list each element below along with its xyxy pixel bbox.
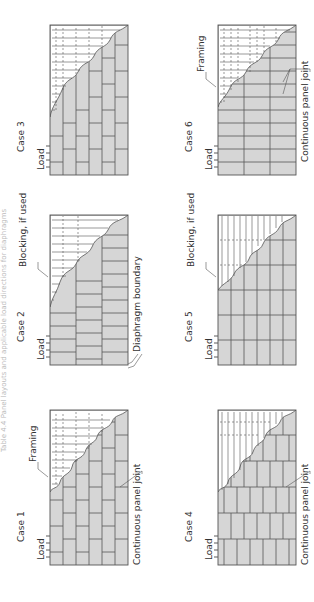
- load-arrows-icon: [46, 146, 50, 167]
- case-2-blocking-callout: Blocking, if used: [18, 193, 28, 267]
- case-1-label: Case 1: [16, 511, 26, 542]
- case-1: Case 1 Load Framing: [16, 410, 142, 565]
- diagram-figure: Table 4.4 Panel layouts and applicable l…: [0, 0, 314, 602]
- leader-line: [128, 354, 142, 368]
- case-4-joint-callout: Continuous panel joint: [300, 463, 310, 565]
- case-4-load-label: Load: [204, 538, 214, 560]
- case-2-label: Case 2: [16, 311, 26, 342]
- case-4-label: Case 4: [184, 511, 194, 542]
- leader-line: [38, 462, 48, 477]
- case-1-framing-callout: Framing: [28, 426, 38, 462]
- case-6-label: Case 6: [184, 121, 194, 152]
- load-arrows-icon: [46, 536, 50, 557]
- figure-title: Table 4.4 Panel layouts and applicable l…: [0, 208, 8, 453]
- case-5-load-label: Load: [204, 338, 214, 360]
- case-2-boundary-callout: Diaphragm boundary: [132, 256, 142, 352]
- load-arrows-icon: [46, 336, 50, 357]
- case-2: Case 2 Load Blocking, if used Diaphragm …: [16, 193, 142, 368]
- case-4: Case 4 Load Continuous: [184, 410, 310, 565]
- load-arrows-icon: [214, 336, 218, 357]
- load-arrows-icon: [214, 536, 218, 557]
- case-3-load-label: Load: [36, 148, 46, 170]
- case-6: Case 6 Load Framing Continuous panel joi…: [184, 25, 310, 175]
- case-6-joint-callout: Continuous panel joint: [300, 60, 310, 162]
- case-5-blocking-callout: Blocking, if used: [186, 193, 196, 267]
- case-3: Case 3 Load: [16, 25, 128, 175]
- leader-line: [38, 262, 48, 277]
- load-arrows-icon: [214, 146, 218, 167]
- leader-line: [206, 72, 216, 87]
- case-1-load-label: Load: [36, 538, 46, 560]
- case-5-label: Case 5: [184, 311, 194, 342]
- case-3-label: Case 3: [16, 121, 26, 152]
- case-1-joint-callout: Continuous panel joint: [132, 463, 142, 565]
- case-6-load-label: Load: [204, 148, 214, 170]
- case-2-load-label: Load: [36, 338, 46, 360]
- leader-line: [206, 262, 216, 277]
- case-5: Case 5 Load Blocking, if used: [184, 193, 296, 365]
- case-6-framing-callout: Framing: [196, 36, 206, 72]
